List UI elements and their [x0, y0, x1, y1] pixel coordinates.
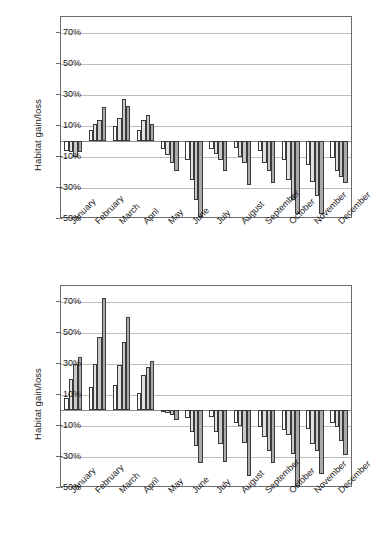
bar-group — [158, 17, 182, 217]
bar-group — [327, 17, 351, 217]
bar-group — [279, 17, 303, 217]
chart-top: Habitat gain/loss 70%50%30%10%-10%-30%-5… — [0, 0, 377, 269]
bar — [126, 106, 130, 142]
y-tick-mark — [56, 125, 60, 126]
bar — [343, 141, 347, 183]
bar — [271, 141, 275, 183]
bar-group — [206, 286, 230, 486]
plot-area-bottom — [60, 285, 352, 487]
bar — [247, 410, 251, 475]
y-tick-mark — [56, 456, 60, 457]
bar-group — [85, 17, 109, 217]
bar-group — [303, 286, 327, 486]
bar-group — [109, 17, 133, 217]
bar-group — [158, 286, 182, 486]
y-tick-mark — [56, 94, 60, 95]
bar — [102, 107, 106, 141]
bar — [295, 141, 299, 214]
bar — [319, 410, 323, 474]
y-tick-mark — [56, 301, 60, 302]
bar-groups — [61, 286, 351, 486]
bar — [247, 141, 251, 185]
bar — [150, 361, 154, 411]
bar-groups — [61, 17, 351, 217]
bar-group — [303, 17, 327, 217]
bar-group — [206, 17, 230, 217]
bar-group — [134, 17, 158, 217]
y-tick-mark — [56, 32, 60, 33]
bar-group — [182, 286, 206, 486]
figure-two-bar-charts: Habitat gain/loss 70%50%30%10%-10%-30%-5… — [0, 0, 377, 538]
y-tick-mark — [56, 156, 60, 157]
bar — [102, 298, 106, 410]
chart-bottom: Habitat gain/loss 70%50%30%10%-10%-30%-5… — [0, 269, 377, 538]
bar-group — [109, 286, 133, 486]
bar — [319, 141, 323, 214]
bar — [271, 410, 275, 463]
bar — [343, 410, 347, 455]
y-tick-mark — [56, 332, 60, 333]
x-axis-labels-bottom: JanuaryFebruaryMarchAprilMayJuneJulyAugu… — [60, 488, 352, 536]
y-tick-mark — [56, 394, 60, 395]
bar-group — [254, 17, 278, 217]
bar — [223, 410, 227, 461]
bar — [126, 317, 130, 410]
bar — [198, 410, 202, 463]
bar-group — [182, 17, 206, 217]
bar — [223, 141, 227, 171]
bar-group — [279, 286, 303, 486]
bar — [174, 141, 178, 171]
y-tick-mark — [56, 363, 60, 364]
bar-group — [85, 286, 109, 486]
bar-group — [134, 286, 158, 486]
y-tick-mark — [56, 425, 60, 426]
y-tick-mark — [56, 63, 60, 64]
bar — [150, 124, 154, 141]
y-tick-mark — [56, 187, 60, 188]
bar — [174, 410, 178, 419]
bar-group — [327, 286, 351, 486]
bar-group — [254, 286, 278, 486]
bar-group — [230, 17, 254, 217]
bar-group — [230, 286, 254, 486]
plot-area-top — [60, 16, 352, 218]
x-axis-labels-top: JanuaryFebruaryMarchAprilMayJuneJulyAugu… — [60, 219, 352, 267]
